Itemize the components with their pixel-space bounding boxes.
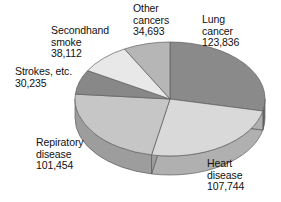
slice-label-strokes-value: 30,235 — [15, 78, 72, 90]
slice-label-lung-cancer-line1: Lung — [202, 14, 239, 26]
slice-label-lung-cancer-value: 123,836 — [202, 37, 239, 49]
slice-label-other-cancers-value: 34,693 — [133, 26, 169, 38]
slice-label-secondhand-smoke-line1: Secondhand — [51, 25, 109, 37]
slice-label-strokes-line1: Strokes, etc. — [15, 66, 72, 78]
slice-label-repiratory-disease: Repiratory disease 101,454 — [36, 137, 83, 172]
slice-label-lung-cancer: Lung cancer 123,836 — [202, 14, 239, 49]
slice-label-heart-disease-line1: Heart — [207, 158, 244, 170]
slice-label-secondhand-smoke: Secondhand smoke 38,112 — [51, 25, 109, 60]
slice-label-other-cancers: Other cancers 34,693 — [133, 3, 169, 38]
slice-label-secondhand-smoke-value: 38,112 — [51, 48, 109, 60]
slice-label-strokes: Strokes, etc. 30,235 — [15, 66, 72, 89]
slice-label-repiratory-disease-line1: Repiratory — [36, 137, 83, 149]
slice-label-repiratory-disease-value: 101,454 — [36, 160, 83, 172]
slice-label-heart-disease: Heart disease 107,744 — [207, 158, 244, 193]
slice-label-other-cancers-line1: Other — [133, 3, 169, 15]
pie-chart-figure: Lung cancer 123,836 Other cancers 34,693… — [0, 0, 281, 202]
slice-label-heart-disease-value: 107,744 — [207, 181, 244, 193]
